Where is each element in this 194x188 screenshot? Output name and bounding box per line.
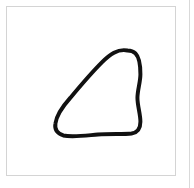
- drawing-canvas: Drawing canvas Drawing frame Irregular h…: [0, 0, 194, 188]
- shape-label: Irregular hand-drawn closed outline rese…: [0, 0, 1, 1]
- hand-drawn-blob-shape[interactable]: [55, 50, 140, 136]
- shape-layer: [7, 7, 175, 175]
- canvas-title: Drawing canvas: [0, 0, 1, 1]
- panel-divider: [189, 0, 190, 188]
- drawing-frame[interactable]: [6, 6, 176, 176]
- frame-label: Drawing frame: [0, 0, 1, 1]
